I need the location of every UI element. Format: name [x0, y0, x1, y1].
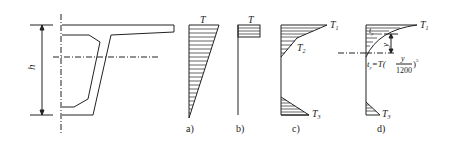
panel-c-t3: T3 — [312, 108, 321, 120]
formula-numerator: y — [400, 54, 405, 63]
panel-a-top-label: T — [200, 14, 207, 25]
panel-c-t2: T2 — [297, 42, 306, 54]
panel-c-t1: T1 — [330, 19, 339, 31]
formula-close: )5 — [413, 58, 419, 69]
panel-d-y: y — [380, 43, 390, 48]
panel-d-formula: ty=T( — [367, 59, 387, 70]
panel-b-top-label: T — [248, 14, 255, 25]
figure-canvas: h T a) T b) T1 T2 T3 c) T1 ty y ty=T( y … — [0, 0, 452, 146]
formula-denominator: 1200 — [396, 66, 412, 75]
panel-c-caption: c) — [292, 123, 300, 135]
panel-d-t3: T3 — [382, 108, 391, 120]
panel-b-uniform-top — [238, 25, 260, 115]
box-girder-section — [30, 14, 174, 134]
height-label: h — [25, 64, 37, 70]
panel-d-ty: ty — [369, 26, 374, 36]
panel-d-caption: d) — [377, 123, 385, 135]
panel-d-t1: T1 — [420, 19, 429, 31]
panel-c-bilinear-gradient — [281, 25, 327, 115]
panel-a-caption: a) — [186, 123, 194, 135]
panel-b-caption: b) — [236, 123, 244, 135]
panel-a-linear-gradient — [189, 25, 219, 118]
temperature-gradient-figure: h T a) T b) T1 T2 T3 c) T1 ty y ty=T( y … — [0, 0, 452, 146]
